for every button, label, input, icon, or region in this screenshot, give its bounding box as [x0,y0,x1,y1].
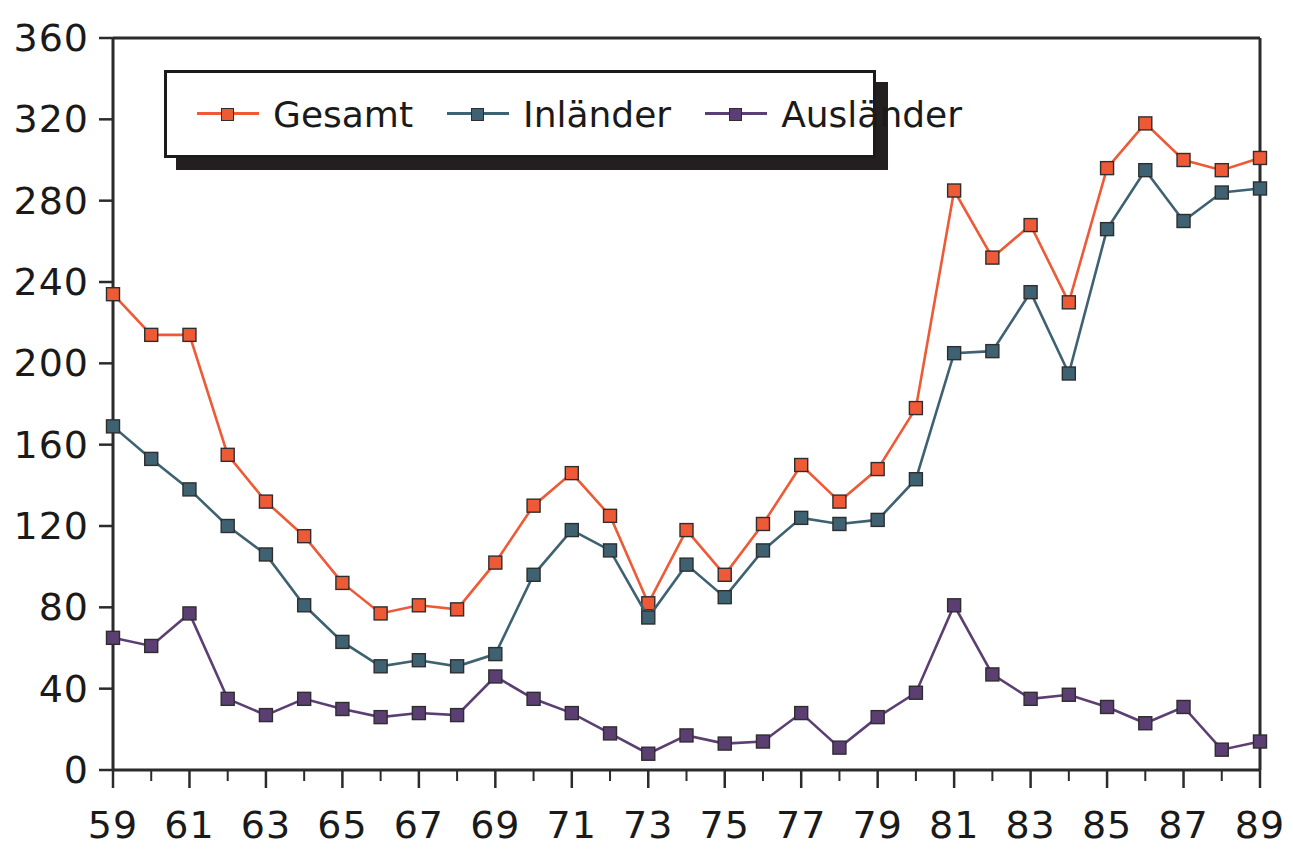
series-inländer [107,164,1267,673]
y-tick-label: 0 [64,748,89,792]
legend-marker-square-icon [729,108,742,121]
legend-swatch-icon [705,105,767,123]
x-tick-label: 65 [317,803,367,847]
data-point-marker [489,556,502,569]
data-point-marker [718,737,731,750]
data-point-marker [1024,692,1037,705]
data-point-marker [871,463,884,476]
data-point-marker [718,568,731,581]
data-point-marker [145,452,158,465]
data-point-marker [374,607,387,620]
data-point-marker [565,524,578,537]
data-point-marker [756,544,769,557]
series-line [113,170,1260,666]
data-point-marker [680,524,693,537]
series-line [113,123,1260,613]
x-tick-label: 61 [164,803,214,847]
data-point-marker [374,711,387,724]
data-point-marker [565,707,578,720]
data-point-marker [107,288,120,301]
data-point-marker [680,729,693,742]
data-series-layer [107,117,1267,760]
data-point-marker [795,511,808,524]
x-tick-label: 67 [394,803,444,847]
x-tick-label: 75 [700,803,750,847]
data-point-marker [489,648,502,661]
data-point-marker [336,576,349,589]
data-point-marker [833,517,846,530]
y-tick-label: 240 [13,260,89,304]
data-point-marker [909,686,922,699]
data-point-marker [1254,151,1267,164]
data-point-marker [1215,743,1228,756]
data-point-marker [336,635,349,648]
data-point-marker [412,599,425,612]
data-point-marker [298,530,311,543]
y-tick-label: 360 [13,16,89,60]
x-tick-label: 63 [241,803,291,847]
data-point-marker [1177,700,1190,713]
data-point-marker [107,631,120,644]
y-tick-label: 80 [39,585,89,629]
data-point-marker [527,499,540,512]
data-point-marker [183,607,196,620]
data-point-marker [986,345,999,358]
series-gesamt [107,117,1267,620]
y-tick-label: 40 [39,667,89,711]
chart-legend: GesamtInländerAusländer [164,70,876,158]
data-point-marker [1254,182,1267,195]
data-point-marker [948,347,961,360]
data-point-marker [183,483,196,496]
x-tick-label: 59 [88,803,138,847]
data-point-marker [145,639,158,652]
data-point-marker [489,670,502,683]
data-point-marker [412,654,425,667]
legend-label: Inländer [523,94,671,135]
data-point-marker [336,703,349,716]
data-point-marker [1024,286,1037,299]
y-tick-label: 200 [13,341,89,385]
legend-swatch-icon [447,105,509,123]
data-point-marker [221,448,234,461]
legend-entry-ausländer: Ausländer [705,94,962,135]
data-point-marker [642,747,655,760]
data-point-marker [259,495,272,508]
x-tick-label: 69 [470,803,520,847]
data-point-marker [1101,223,1114,236]
data-point-marker [221,520,234,533]
data-point-marker [259,709,272,722]
data-point-marker [527,568,540,581]
x-tick-label: 83 [1005,803,1055,847]
data-point-marker [1139,164,1152,177]
x-tick-label: 73 [623,803,673,847]
data-point-marker [642,611,655,624]
data-point-marker [909,402,922,415]
data-point-marker [871,711,884,724]
data-point-marker [451,660,464,673]
data-point-marker [1139,717,1152,730]
data-point-marker [948,599,961,612]
data-point-marker [833,495,846,508]
data-point-marker [795,459,808,472]
legend-swatch-icon [197,105,259,123]
data-point-marker [451,709,464,722]
data-point-marker [107,420,120,433]
data-point-marker [680,558,693,571]
x-tick-label: 87 [1158,803,1208,847]
data-point-marker [298,692,311,705]
data-point-marker [1062,688,1075,701]
data-point-marker [795,707,808,720]
y-tick-label: 120 [13,504,89,548]
y-tick-label: 280 [13,179,89,223]
x-tick-label: 71 [547,803,597,847]
legend-label: Ausländer [781,94,962,135]
legend-label: Gesamt [273,94,413,135]
data-point-marker [1101,162,1114,175]
legend-entry-gesamt: Gesamt [197,94,413,135]
data-point-marker [756,517,769,530]
x-tick-label: 89 [1235,803,1285,847]
data-point-marker [604,509,617,522]
data-point-marker [1024,219,1037,232]
x-axis-tick-labels: 59616365676971737577798183858789 [88,803,1285,847]
data-point-marker [374,660,387,673]
